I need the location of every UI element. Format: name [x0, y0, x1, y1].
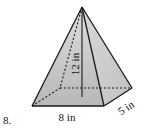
base-width-label: 5 in: [116, 98, 137, 117]
pyramid-figure: 12 in 8 in 5 in 8.: [0, 0, 144, 129]
base-length-label: 8 in: [59, 111, 76, 123]
problem-number: 8.: [3, 114, 12, 126]
height-label: 12 in: [69, 52, 81, 75]
